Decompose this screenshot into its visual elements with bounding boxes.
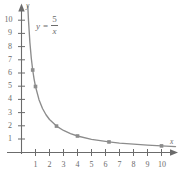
y-tick-label-6: 6 [4,69,16,77]
y-tick-label-4: 4 [4,95,16,103]
y-axis-label: y [26,2,29,10]
equation-operator: = [43,21,48,31]
x-tick-label-7: 7 [114,161,126,169]
y-tick-label-5: 5 [4,82,16,90]
equation-numerator: 5 [51,15,58,24]
y-tick-label-9: 9 [4,29,16,37]
equation-denominator: x [52,27,58,36]
x-tick-label-9: 9 [142,161,154,169]
data-point-marker-2 [55,124,59,128]
y-axis-arrowhead [18,4,24,12]
x-tick-label-3: 3 [58,161,70,169]
x-tick-label-5: 5 [86,161,98,169]
x-tick-label-6: 6 [100,161,112,169]
data-point-marker-3 [76,134,80,138]
y-tick-label-7: 7 [4,56,16,64]
x-tick-label-8: 8 [128,161,140,169]
data-point-marker-1 [34,85,38,89]
equation-fraction: 5 x [51,15,58,36]
y-tick-label-2: 2 [4,122,16,130]
data-point-marker-0 [31,68,35,72]
x-axis-arrowhead [170,149,178,155]
data-point-markers [31,68,163,148]
data-point-marker-4 [107,140,111,144]
x-tick-label-1: 1 [30,161,42,169]
graph-figure: 1 2 3 4 5 6 7 8 9 10 1 2 3 4 5 6 7 8 9 1… [0,0,187,181]
y-tick-label-3: 3 [4,109,16,117]
x-tick-label-4: 4 [72,161,84,169]
plot-canvas [0,0,187,181]
y-tick-label-8: 8 [4,43,16,51]
data-point-marker-5 [160,144,164,148]
y-tick-label-1: 1 [4,135,16,143]
x-tick-label-10: 10 [155,161,169,169]
equation-lhs: y [36,21,40,31]
y-tick-label-10: 10 [1,16,16,24]
x-axis-label: x [170,138,173,146]
x-tick-label-2: 2 [44,161,56,169]
equation-annotation: y = 5 x [36,15,58,36]
